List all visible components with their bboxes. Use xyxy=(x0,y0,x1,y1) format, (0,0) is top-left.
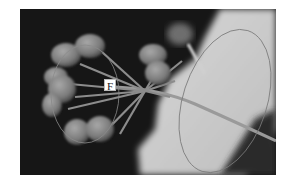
photo-figure: F xyxy=(20,9,276,175)
figure-label: F xyxy=(104,79,116,91)
photo-illustration xyxy=(20,9,276,175)
